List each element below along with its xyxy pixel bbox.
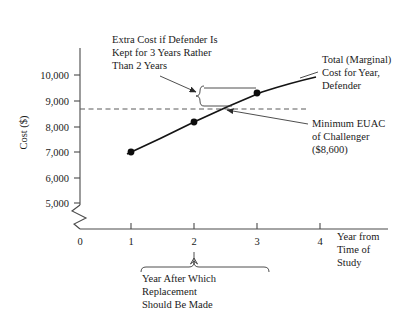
x-axis-title: Year from Time of Study	[337, 230, 379, 270]
leader-minimum-euac	[227, 110, 308, 124]
y-tick-label-5000: 5,000	[45, 198, 69, 209]
data-point-year-1	[128, 149, 135, 156]
y-tick-label-7000: 7,000	[45, 147, 69, 158]
series-data-points	[128, 90, 261, 156]
x-tick-label-4: 4	[317, 236, 323, 247]
annotation-minimum-euac: Minimum EUAC of Challenger ($8,600)	[312, 117, 385, 157]
y-axis-tick-labels: 10,000 9,000 8,000 7,000 6,000 5,000	[40, 70, 69, 209]
brace-replacement-year	[141, 262, 269, 272]
x-tick-label-0: 0	[77, 236, 82, 247]
annotation-replacement-year: Year After Which Replacement Should Be M…	[142, 272, 216, 312]
y-tick-label-9000: 9,000	[45, 96, 69, 107]
y-axis-title: Cost ($)	[18, 98, 29, 168]
y-axis-break-zigzag	[72, 205, 86, 229]
y-axis-ticks	[74, 75, 80, 203]
chart-figure: 10,000 9,000 8,000 7,000 6,000 5,000 0 1…	[0, 0, 414, 312]
y-tick-label-6000: 6,000	[45, 173, 69, 184]
annotation-extra-cost: Extra Cost if Defender Is Kept for 3 Yea…	[112, 33, 218, 73]
x-tick-label-3: 3	[254, 236, 259, 247]
x-tick-label-1: 1	[128, 236, 133, 247]
data-point-year-2	[191, 119, 198, 126]
annotation-total-marginal-cost: Total (Marginal) Cost for Year, Defender	[322, 53, 391, 93]
y-tick-label-8000: 8,000	[45, 122, 69, 133]
brace-extra-cost	[196, 86, 204, 106]
leader-extra-cost	[160, 76, 196, 92]
x-axis-tick-labels: 0 1 2 3 4	[77, 236, 323, 247]
y-tick-label-10000: 10,000	[40, 70, 69, 81]
x-tick-label-2: 2	[191, 236, 196, 247]
x-axis-ticks	[131, 223, 320, 229]
data-point-year-3	[254, 90, 261, 97]
series-line-defender-cost	[127, 77, 316, 154]
